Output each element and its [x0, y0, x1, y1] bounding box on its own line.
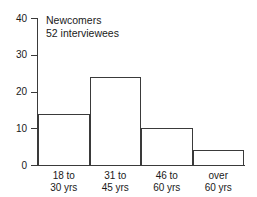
chart-annotation: Newcomers 52 interviewees: [46, 14, 119, 40]
y-axis-tick-label: 0: [21, 161, 27, 171]
bar: [193, 150, 245, 165]
bar: [90, 77, 142, 165]
y-axis-tick-label: 10: [16, 124, 27, 134]
y-axis-tick-label: 20: [16, 87, 27, 97]
y-axis-tick-label: 30: [16, 50, 27, 60]
x-axis-line: [37, 165, 245, 166]
bar: [141, 128, 193, 165]
x-axis-category-label: 46 to 60 yrs: [141, 170, 193, 194]
y-axis-tick: 20: [31, 92, 37, 93]
y-axis-tick-label: 40: [16, 14, 27, 24]
y-axis-tick: 30: [31, 55, 37, 56]
y-axis-tick: 0: [31, 165, 37, 166]
x-axis-category-label: 18 to 30 yrs: [38, 170, 90, 194]
x-axis-category-label: 31 to 45 yrs: [90, 170, 142, 194]
bar: [38, 114, 90, 165]
bar-chart: Newcomers 52 interviewees 010203040 18 t…: [0, 0, 257, 197]
x-axis-category-label: over 60 yrs: [193, 170, 245, 194]
y-axis-tick: 40: [31, 18, 37, 19]
y-axis-tick: 10: [31, 128, 37, 129]
